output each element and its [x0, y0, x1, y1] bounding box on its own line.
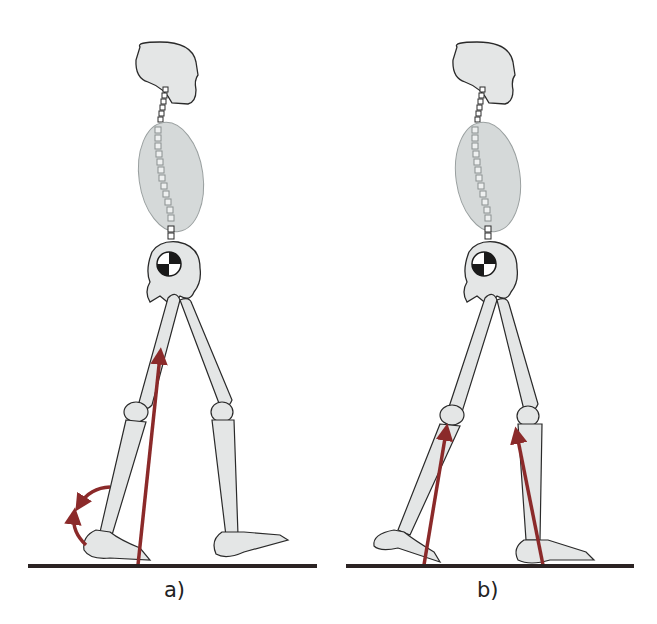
knee-rear-b [517, 406, 539, 426]
foot-rear-a [214, 532, 288, 557]
tibia-front-b [398, 424, 460, 535]
panel-b [346, 42, 634, 568]
tibia-rear-b [518, 424, 542, 540]
center-of-mass-icon [472, 252, 496, 276]
femur-front-a [138, 294, 180, 408]
tibia-front-a [100, 420, 146, 535]
knee-front-a [124, 402, 148, 422]
knee-rear-a [211, 402, 233, 422]
femur-front-b [448, 294, 497, 414]
center-of-mass-icon [157, 252, 181, 276]
foot-rear-b [516, 540, 594, 563]
panel-label-b: b) [477, 578, 499, 602]
ground-line-a [28, 564, 317, 568]
cervical-spine-b [475, 87, 485, 122]
knee-front-b [440, 405, 464, 425]
gait-diagram [0, 0, 657, 624]
panel-label-a: a) [164, 578, 185, 602]
panel-a [28, 42, 317, 568]
femur-rear-a [180, 299, 232, 407]
rotation-arrow [80, 487, 110, 504]
cervical-spine-a [158, 87, 168, 122]
femur-rear-b [497, 299, 538, 411]
tibia-rear-a [212, 420, 238, 536]
ground-line-b [346, 564, 634, 568]
